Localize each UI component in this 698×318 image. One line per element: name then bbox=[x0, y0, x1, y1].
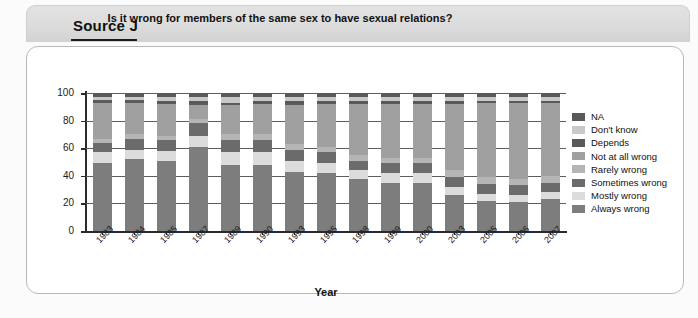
bar-segment bbox=[477, 177, 496, 184]
legend-swatch bbox=[572, 179, 585, 187]
bar-segment bbox=[157, 151, 176, 161]
bar-segment bbox=[285, 172, 304, 231]
legend-label: Rarely wrong bbox=[591, 164, 647, 175]
legend-label: Depends bbox=[591, 137, 629, 148]
legend-swatch bbox=[572, 192, 585, 200]
bar-segment bbox=[221, 165, 240, 231]
chart-title: Is it wrong for members of the same sex … bbox=[0, 12, 560, 24]
legend-item: Depends bbox=[572, 136, 690, 149]
legend-swatch bbox=[572, 152, 585, 160]
bar-segment bbox=[221, 140, 240, 152]
y-tick-mark bbox=[81, 148, 86, 150]
legend-label: Always wrong bbox=[591, 203, 650, 214]
y-tick-label: 80 bbox=[44, 115, 74, 126]
y-tick-label: 60 bbox=[44, 142, 74, 153]
bar-segment bbox=[93, 103, 112, 139]
bar-segment bbox=[509, 185, 528, 195]
bar-segment bbox=[253, 140, 272, 152]
legend-swatch bbox=[572, 139, 585, 147]
y-tick-mark bbox=[81, 231, 86, 233]
bar-stack bbox=[349, 93, 368, 231]
plot-area bbox=[86, 93, 566, 231]
bar-segment bbox=[189, 123, 208, 135]
bar-segment bbox=[445, 104, 464, 170]
bar-segment bbox=[477, 103, 496, 178]
bar-segment bbox=[381, 163, 400, 173]
bar-segment bbox=[221, 152, 240, 164]
legend-label: Don't know bbox=[591, 124, 638, 135]
bar-segment bbox=[317, 163, 336, 173]
legend-swatch bbox=[572, 113, 585, 121]
bar-segment bbox=[125, 150, 144, 160]
bar-segment bbox=[541, 183, 560, 193]
bar-segment bbox=[253, 104, 272, 134]
bar-segment bbox=[93, 143, 112, 153]
bar-stack bbox=[157, 93, 176, 231]
bar-segment bbox=[93, 152, 112, 163]
bar-segment bbox=[285, 161, 304, 172]
legend-item: NA bbox=[572, 110, 690, 123]
y-tick-label: 100 bbox=[44, 87, 74, 98]
bar-stack bbox=[253, 93, 272, 231]
bar-stack bbox=[541, 93, 560, 231]
x-axis-label: Year bbox=[86, 286, 566, 298]
bar-segment bbox=[349, 170, 368, 178]
legend-item: Always wrong bbox=[572, 202, 690, 215]
bar-segment bbox=[285, 105, 304, 144]
legend-label: Mostly wrong bbox=[591, 190, 647, 201]
bar-segment bbox=[189, 136, 208, 147]
bar-segment bbox=[221, 105, 240, 134]
legend-label: Sometimes wrong bbox=[591, 177, 667, 188]
legend-item: Mostly wrong bbox=[572, 189, 690, 202]
bar-segment bbox=[157, 161, 176, 231]
bar-segment bbox=[253, 165, 272, 231]
legend-item: Rarely wrong bbox=[572, 163, 690, 176]
bar-segment bbox=[285, 150, 304, 161]
bar-segment bbox=[157, 104, 176, 136]
bar-segment bbox=[349, 179, 368, 231]
bar-segment bbox=[477, 194, 496, 201]
bar-stack bbox=[285, 93, 304, 231]
y-tick-mark bbox=[81, 121, 86, 123]
bar-segment bbox=[445, 187, 464, 195]
bar-stack bbox=[509, 93, 528, 231]
scanned-page: Source J Is it wrong for members of the … bbox=[0, 0, 698, 318]
bar-stack bbox=[445, 93, 464, 231]
bar-segment bbox=[189, 105, 208, 119]
y-tick-label: 40 bbox=[44, 170, 74, 181]
bar-segment bbox=[125, 139, 144, 150]
bar-stack bbox=[477, 93, 496, 231]
bar-segment bbox=[317, 104, 336, 147]
bar-segment bbox=[445, 170, 464, 177]
source-label-underline bbox=[71, 39, 137, 41]
bar-segment bbox=[189, 147, 208, 231]
bar-segment bbox=[413, 173, 432, 183]
y-tick-label: 0 bbox=[44, 225, 74, 236]
bar-segment bbox=[381, 173, 400, 183]
bar-segment bbox=[445, 177, 464, 187]
bar-segment bbox=[125, 159, 144, 231]
bar-segment bbox=[93, 163, 112, 231]
legend-item: Don't know bbox=[572, 123, 690, 136]
bar-segment bbox=[349, 104, 368, 155]
bar-segment bbox=[381, 104, 400, 158]
bar-segment bbox=[253, 152, 272, 164]
bar-stack bbox=[381, 93, 400, 231]
legend-item: Sometimes wrong bbox=[572, 176, 690, 189]
bar-segment bbox=[541, 176, 560, 183]
y-tick-mark bbox=[81, 203, 86, 205]
bar-segment bbox=[317, 152, 336, 163]
bar-segment bbox=[477, 184, 496, 194]
bar-segment bbox=[413, 104, 432, 158]
y-tick-mark bbox=[81, 93, 86, 95]
bar-segment bbox=[509, 195, 528, 202]
bar-stack bbox=[189, 93, 208, 231]
legend-swatch bbox=[572, 126, 585, 134]
legend-swatch bbox=[572, 165, 585, 173]
bar-segment bbox=[509, 179, 528, 186]
legend-label: Not at all wrong bbox=[591, 151, 657, 162]
y-tick-mark bbox=[81, 176, 86, 178]
bar-segment bbox=[317, 173, 336, 231]
bar-segment bbox=[349, 161, 368, 171]
bar-stack bbox=[125, 93, 144, 231]
